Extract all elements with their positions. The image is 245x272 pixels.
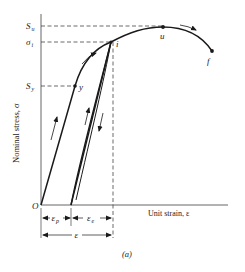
su-label: S u [26,21,35,32]
stress-strain-curve [41,27,212,205]
instant-point-label: i [116,39,119,49]
x-axis-label: Unit strain, ε [148,209,190,218]
loop-inner-line [76,42,111,200]
svg-text:ε: ε [52,213,56,223]
loading-arrow-icon [51,117,57,140]
svg-text:S: S [26,81,31,91]
svg-text:S: S [26,21,31,31]
svg-text:p: p [55,218,59,224]
y-axis-label: Nominal stress, σ [11,103,21,163]
instant-point-marker [109,40,112,43]
svg-text:ε: ε [87,213,91,223]
svg-text:σ: σ [26,37,31,47]
total-strain-label: ε [75,230,79,240]
origin-label: O [32,201,39,211]
yield-point-marker [73,84,77,88]
sy-label: S y [26,81,35,92]
reload-arrow-icon [85,108,89,125]
stress-strain-diagram: y i u f S u σ i S y Nominal stress, σ O … [0,0,245,272]
fracture-point-marker [210,49,214,53]
ee-label: ε e [87,213,95,224]
sigma-i-label: σ i [26,37,34,48]
ultimate-point-label: u [160,31,165,41]
ultimate-point-marker [161,25,165,29]
figure-caption: (a) [122,249,132,259]
yield-point-label: y [78,82,83,92]
svg-text:y: y [31,86,35,92]
unload-arrow-icon [99,113,103,131]
ep-label: ε p [52,213,60,224]
fracture-point-label: f [207,56,211,66]
svg-text:e: e [92,218,95,224]
svg-text:u: u [32,26,35,32]
svg-text:i: i [32,42,34,48]
